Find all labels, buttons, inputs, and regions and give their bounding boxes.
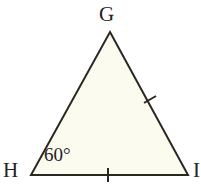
- angle-measure-label-h: 60°: [44, 145, 71, 164]
- geometry-figure: G H I 60°: [0, 0, 201, 196]
- triangle-svg: [0, 0, 201, 196]
- vertex-label-g: G: [99, 4, 114, 25]
- vertex-label-h: H: [3, 160, 18, 181]
- vertex-label-i: I: [193, 160, 200, 181]
